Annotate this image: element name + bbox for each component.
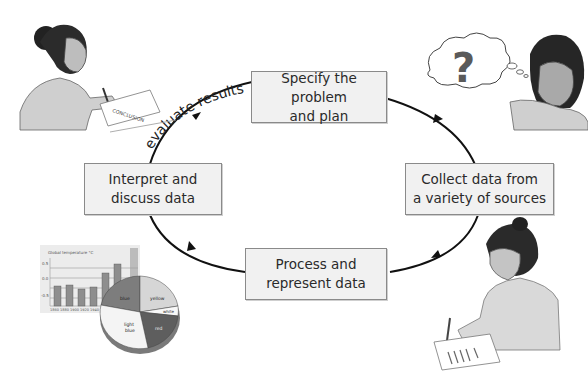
step-specify-box: Specify the problem and plan — [251, 71, 387, 123]
pie-chart-illustration: blue yellow white red light blue — [100, 276, 180, 354]
svg-text:-0.5: -0.5 — [41, 293, 49, 298]
step-collect-line2: a variety of sources — [413, 189, 546, 208]
svg-text:white: white — [163, 309, 174, 314]
step-process-line1: Process and — [276, 255, 357, 274]
svg-text:?: ? — [452, 45, 475, 91]
svg-text:1860 1880 1900 1920 1940: 1860 1880 1900 1920 1940 — [50, 308, 99, 312]
svg-text:red: red — [155, 326, 163, 331]
svg-text:Global temperature °C: Global temperature °C — [48, 250, 93, 255]
step-collect-line1: Collect data from — [421, 170, 538, 189]
step-interpret-line1: Interpret and — [109, 170, 198, 189]
step-interpret-line2: discuss data — [111, 189, 195, 208]
svg-text:light: light — [124, 322, 134, 327]
svg-text:blue: blue — [120, 296, 130, 301]
person-thinking-illustration: ? — [428, 33, 588, 130]
step-specify-line2: and plan — [290, 107, 349, 126]
step-process-box: Process and represent data — [245, 248, 387, 300]
person-filling-form-illustration — [434, 217, 560, 370]
step-collect-box: Collect data from a variety of sources — [405, 163, 554, 215]
step-interpret-box: Interpret and discuss data — [84, 163, 222, 215]
svg-text:blue: blue — [125, 328, 135, 333]
svg-text:0.0: 0.0 — [42, 276, 49, 281]
person-writing-conclusion-illustration: CONCLUSION — [20, 25, 176, 132]
svg-text:yellow: yellow — [150, 296, 165, 301]
step-specify-line1: Specify the problem — [252, 69, 386, 107]
step-process-line2: represent data — [266, 274, 366, 293]
svg-text:0.5: 0.5 — [42, 261, 49, 266]
